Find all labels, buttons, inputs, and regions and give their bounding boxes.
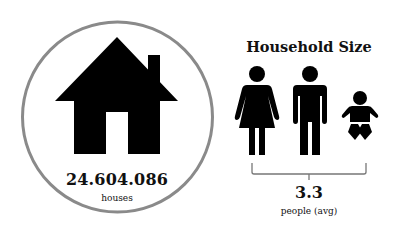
household-size-label: people (avg) — [259, 206, 359, 216]
household-size-title: Household Size — [236, 38, 382, 55]
bracket — [252, 163, 366, 180]
baby-icon — [342, 91, 379, 140]
house-count-label: houses — [42, 193, 192, 203]
house-count: 24.604.086 — [42, 170, 192, 189]
household-size-value: 3.3 — [269, 183, 349, 202]
woman-icon — [235, 66, 280, 155]
infographic: 24.604.086 houses Household Size 3.3 peo… — [0, 0, 394, 231]
man-icon — [293, 66, 327, 155]
house-icon — [55, 37, 178, 154]
